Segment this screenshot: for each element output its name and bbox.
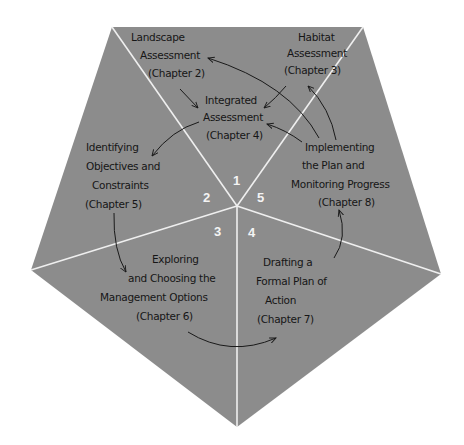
svg-text:Action: Action [265,294,296,306]
svg-text:(Chapter 4): (Chapter 4) [206,129,263,141]
svg-text:(Chapter 3): (Chapter 3) [284,64,341,76]
svg-text:Integrated: Integrated [205,94,257,106]
sector-number-1: 1 [233,173,240,188]
svg-text:Objectives and: Objectives and [86,160,160,172]
svg-text:Implementing: Implementing [305,141,374,153]
sector-number-5: 5 [257,190,264,205]
pentagon-shape [31,27,441,427]
svg-text:Formal Plan of: Formal Plan of [256,275,327,287]
node-integrated-assessment: Integrated Assessment (Chapter 4) [203,94,263,141]
svg-text:Identifying: Identifying [86,141,139,153]
svg-text:Exploring: Exploring [152,253,199,265]
svg-text:Constraints: Constraints [92,179,149,191]
svg-text:and Choosing the: and Choosing the [128,272,215,284]
svg-text:(Chapter 8): (Chapter 8) [318,196,375,208]
svg-text:Landscape: Landscape [131,31,185,43]
svg-text:Management Options: Management Options [100,291,208,303]
svg-text:(Chapter 7): (Chapter 7) [257,313,314,325]
svg-text:(Chapter 2): (Chapter 2) [148,67,205,79]
svg-text:Assessment: Assessment [140,49,200,61]
svg-text:(Chapter 5): (Chapter 5) [85,198,142,210]
planning-cycle-diagram: 1 2 3 4 5 Landscape Assessment (Chapter … [0,0,464,445]
svg-text:Habitat: Habitat [298,31,335,43]
svg-text:the Plan and: the Plan and [302,159,364,171]
svg-text:Drafting a: Drafting a [263,256,312,268]
sector-number-3: 3 [214,224,221,239]
sector-number-2: 2 [203,190,210,205]
svg-text:(Chapter 6): (Chapter 6) [136,310,193,322]
sector-number-4: 4 [248,225,256,240]
svg-text:Assessment: Assessment [287,47,347,59]
svg-text:Monitoring Progress: Monitoring Progress [291,178,390,190]
svg-text:Assessment: Assessment [203,111,263,123]
